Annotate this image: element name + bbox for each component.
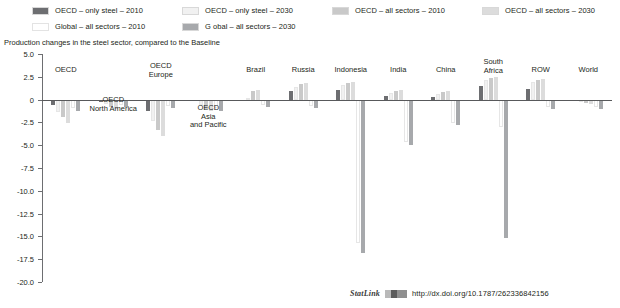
bar: [161, 100, 165, 136]
bar: [256, 90, 260, 100]
bar: [541, 79, 545, 100]
bar: [404, 100, 408, 142]
bar: [531, 82, 535, 99]
legend-item-global-all-sectors-2030: G obal – all sectors – 2030: [182, 22, 296, 31]
y-axis-tick-label: -10.0: [0, 186, 34, 195]
bar: [151, 100, 155, 122]
bar: [441, 92, 445, 99]
legend-swatch-icon: [332, 7, 349, 15]
category-label: OECD Europe: [125, 62, 197, 79]
y-axis-tick-label: 5.0: [0, 50, 34, 59]
legend-item-oecd-all-sectors-2010: OECD – all sectors – 2010: [332, 6, 482, 15]
legend-item-oecd-only-steel-2030: OECD – only steel – 2030: [182, 6, 332, 15]
y-axis-tick-label: -2.5: [0, 118, 34, 127]
bar: [251, 91, 255, 99]
bar: [494, 77, 498, 100]
bar: [346, 83, 350, 99]
legend-item-oecd-all-sectors-2030: OECD – all sectors – 2030: [482, 6, 595, 15]
y-axis-tick-label: -17.5: [0, 255, 34, 264]
y-axis-tick-mark: [38, 282, 42, 283]
bar: [314, 100, 318, 108]
bar: [299, 84, 303, 100]
statlink-footer: StatLink http://dx.doi.org/10.1787/26233…: [350, 289, 549, 298]
legend-swatch-icon: [182, 23, 199, 31]
y-axis-tick-label: -7.5: [0, 164, 34, 173]
bar: [551, 100, 555, 109]
category-label: OECD: [30, 66, 102, 75]
bar: [394, 91, 398, 99]
bar: [336, 90, 340, 99]
bar: [526, 89, 530, 100]
category-label: World: [553, 66, 620, 75]
bar: [484, 80, 488, 99]
bar: [71, 100, 75, 108]
statlink-url[interactable]: http://dx.doi.org/10.1787/262336842156: [412, 289, 549, 298]
chart-subtitle: Production changes in the steel sector, …: [4, 38, 220, 47]
bar: [341, 85, 345, 100]
category-label: OECD North America: [78, 96, 150, 113]
bar: [399, 90, 403, 99]
legend-swatch-icon: [182, 7, 199, 15]
legend-swatch-icon: [32, 23, 49, 31]
bar: [304, 83, 308, 99]
bar: [289, 91, 293, 99]
chart-legend: OECD – only steel – 2010 OECD – only ste…: [0, 4, 620, 34]
legend-label: G obal – all sectors – 2030: [205, 22, 296, 31]
y-axis-tick-label: 2.5: [0, 72, 34, 81]
bar: [56, 100, 60, 113]
bar: [61, 100, 65, 117]
statlink-figure: OECD – only steel – 2010 OECD – only ste…: [0, 0, 620, 308]
legend-item-oecd-only-steel-2010: OECD – only steel – 2010: [32, 6, 182, 15]
bar: [499, 100, 503, 127]
legend-label: Global – all sectors – 2010: [55, 22, 145, 31]
bar: [356, 100, 360, 243]
legend-label: OECD – only steel – 2030: [205, 6, 293, 15]
bar: [479, 86, 483, 100]
legend-item-global-all-sectors-2010: Global – all sectors – 2010: [32, 22, 182, 31]
legend-label: OECD – all sectors – 2010: [355, 6, 445, 15]
bar: [489, 78, 493, 100]
bar: [599, 100, 603, 109]
bar: [409, 100, 413, 146]
bar: [456, 100, 460, 126]
statlink-barcode-icon: [385, 290, 407, 298]
y-axis-tick-label: -20.0: [0, 278, 34, 287]
y-axis-tick-label: -5.0: [0, 141, 34, 150]
y-axis-tick-label: 0: [0, 95, 34, 104]
legend-label: OECD – all sectors – 2030: [505, 6, 595, 15]
bar: [156, 100, 160, 130]
bar: [536, 80, 540, 100]
legend-label: OECD – only steel – 2010: [55, 6, 143, 15]
bar: [451, 100, 455, 124]
bar: [361, 100, 365, 253]
legend-swatch-icon: [482, 7, 499, 15]
bar: [446, 91, 450, 99]
bar: [351, 82, 355, 99]
legend-row-1: OECD – only steel – 2010 OECD – only ste…: [0, 4, 620, 17]
statlink-label: StatLink: [350, 289, 380, 298]
bar: [504, 100, 508, 239]
plot-area: [42, 54, 612, 282]
y-axis-tick-label: -15.0: [0, 232, 34, 241]
category-label: OECD Asia and Pacific: [173, 104, 245, 130]
bar: [294, 87, 298, 100]
y-axis-tick-label: -12.5: [0, 209, 34, 218]
legend-row-2: Global – all sectors – 2010 G obal – all…: [0, 20, 620, 33]
legend-swatch-icon: [32, 7, 49, 15]
bar: [66, 100, 70, 124]
